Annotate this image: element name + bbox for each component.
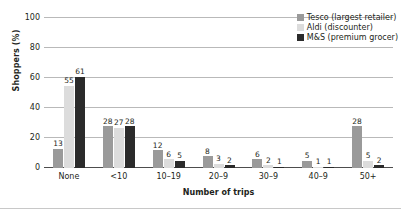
bar-slot: 13 [53,18,63,168]
bar-value-label: 5 [305,152,310,160]
bar-slot: 12 [153,18,163,168]
bar[interactable]: 28 [352,126,362,168]
x-axis-tick-label: 20–9 [194,172,244,181]
legend-label: Tesco (largest retailer) [307,13,397,22]
bar-slot: 3 [214,18,224,168]
bar[interactable]: 2 [374,165,384,168]
bar[interactable]: 1 [313,167,323,169]
bar-chart-figure: Shoppers (%) 020406080100 13556128272812… [0,0,401,218]
y-axis-tick-label: 60 [30,73,40,82]
bar-value-label: 27 [114,119,124,127]
bar[interactable]: 12 [153,150,163,168]
bar-value-label: 61 [75,68,85,76]
bar[interactable]: 28 [125,126,135,168]
bar-group: 1265 [144,18,194,168]
bar[interactable]: 5 [302,161,312,169]
bar[interactable]: 55 [64,86,74,169]
legend-label: M&S (premium grocer) [307,33,398,42]
legend-item[interactable]: Aldi (discounter) [297,23,398,32]
bar[interactable]: 6 [252,159,262,168]
bar-slot: 1 [274,18,284,168]
bar[interactable]: 27 [114,128,124,169]
legend-swatch-icon [297,14,304,21]
bar-value-label: 1 [327,158,332,166]
bar-slot: 28 [103,18,113,168]
bar-value-label: 2 [227,157,232,165]
bar-slot: 6 [164,18,174,168]
bar-value-label: 55 [64,77,74,85]
bar-value-label: 1 [316,158,321,166]
bar-slot: 2 [225,18,235,168]
bar[interactable]: 61 [75,77,85,169]
y-axis-tick-label: 0 [35,163,40,172]
bar[interactable]: 28 [103,126,113,168]
legend-item[interactable]: Tesco (largest retailer) [297,13,398,22]
bar-value-label: 28 [352,118,362,126]
y-axis-title: Shoppers (%) [12,13,21,109]
bar-value-label: 2 [377,157,382,165]
legend-label: Aldi (discounter) [307,23,373,32]
legend-swatch-icon [297,24,304,31]
legend-item[interactable]: M&S (premium grocer) [297,33,398,42]
footer-divider [0,208,401,209]
bar-group: 282728 [94,18,144,168]
y-axis-tick-label: 80 [30,43,40,52]
bar[interactable]: 5 [175,161,185,169]
y-axis-tick-label: 100 [25,13,40,22]
bar-slot: 28 [125,18,135,168]
bar-value-label: 8 [205,148,210,156]
bar[interactable]: 13 [53,149,63,169]
bar[interactable]: 2 [263,165,273,168]
bar-group: 832 [194,18,244,168]
bar-value-label: 28 [103,118,113,126]
x-axis-title: Number of trips [44,188,393,197]
bar-value-label: 3 [216,155,221,163]
bar-slot: 61 [75,18,85,168]
x-axis-tick-label: 50+ [343,172,393,181]
legend-swatch-icon [297,34,304,41]
bar-value-label: 5 [366,152,371,160]
bar[interactable]: 6 [164,159,174,168]
bar-group: 135561 [44,18,94,168]
bar[interactable]: 8 [203,156,213,168]
bar[interactable]: 1 [324,167,334,169]
bar-value-label: 2 [266,157,271,165]
bar-value-label: 13 [53,140,63,148]
x-axis-tick-label: None [44,172,94,181]
bar-group: 621 [243,18,293,168]
bar-value-label: 12 [153,142,163,150]
bar-value-label: 6 [255,151,260,159]
bar[interactable]: 5 [363,161,373,169]
bar[interactable]: 2 [225,165,235,168]
bar-value-label: 28 [125,118,135,126]
bar-value-label: 5 [177,152,182,160]
y-axis-tick-label: 40 [30,103,40,112]
bar-slot: 6 [252,18,262,168]
bar-value-label: 6 [166,151,171,159]
x-axis-tick-label: 10–19 [144,172,194,181]
x-axis-tick-label: 30–9 [243,172,293,181]
bar-slot: 27 [114,18,124,168]
x-axis-tick-labels: None<1010–1920–930–940–950+ [44,172,393,181]
y-axis-tick-label: 20 [30,133,40,142]
bar[interactable]: 3 [214,164,224,169]
bar-slot: 5 [175,18,185,168]
bar-slot: 8 [203,18,213,168]
bar-value-label: 1 [277,158,282,166]
x-axis-tick-label: 40–9 [293,172,343,181]
bar-slot: 55 [64,18,74,168]
bar[interactable]: 1 [274,167,284,169]
bar-slot: 2 [263,18,273,168]
x-axis-tick-label: <10 [94,172,144,181]
legend: Tesco (largest retailer)Aldi (discounter… [297,13,398,42]
